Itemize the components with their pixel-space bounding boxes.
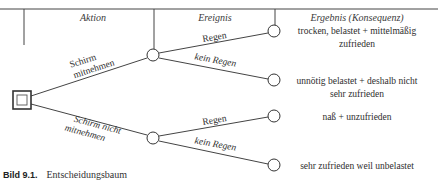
caption-number: Bild 9.1.	[3, 170, 38, 180]
chance-node-no-umbrella	[147, 132, 159, 144]
header-event: Ereignis	[197, 12, 232, 23]
outcome-node-2	[268, 74, 280, 86]
result-4: sehr zufrieden weil unbelastet	[300, 161, 414, 171]
decision-node	[13, 91, 31, 109]
decision-tree-diagram: Aktion Ereignis Ergebnis (Konsequenz) Sc…	[0, 0, 438, 189]
header-action: Aktion	[79, 12, 106, 23]
chance-node-take-umbrella	[147, 49, 159, 61]
result-2-line2: sehr zufrieden	[330, 89, 384, 99]
figure-caption: Bild 9.1. Entscheidungsbaum	[3, 164, 127, 181]
outcome-node-3	[268, 110, 280, 122]
result-3: naß + unzufrieden	[322, 112, 391, 122]
outcome-node-4	[268, 159, 280, 171]
result-1-line2: zufrieden	[339, 39, 375, 49]
result-1-line1: trocken, belastet + mittelmäßig	[298, 26, 417, 36]
outcome-node-1	[268, 25, 280, 37]
header-result: Ergebnis (Konsequenz)	[309, 12, 404, 24]
event-label-rain-1: Regen	[202, 30, 228, 44]
action-label-take: Schirm mitnehmen	[68, 47, 116, 80]
result-2-line1: unnötig belastet + deshalb nicht	[297, 76, 418, 86]
caption-text: Entscheidungsbaum	[47, 169, 128, 180]
action-label-not-take: Schirm nicht mitnehmen	[64, 112, 123, 147]
